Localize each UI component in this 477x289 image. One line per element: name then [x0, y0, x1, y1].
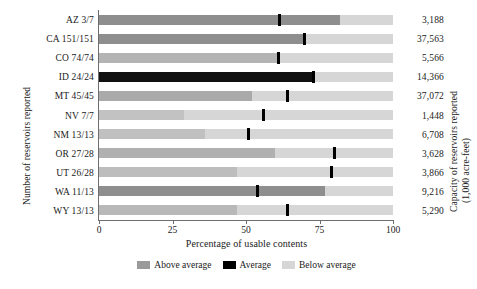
x-axis-tick-label: 100: [386, 225, 400, 235]
capacity-value: 5,566: [399, 53, 444, 63]
bar-segment-above-average: [99, 167, 237, 177]
plot-area: [99, 10, 393, 220]
bar-row: [99, 34, 393, 44]
category-label: MT 45/45: [30, 91, 94, 101]
x-axis-tick-label: 0: [97, 225, 102, 235]
category-label: WY 13/13: [30, 206, 94, 216]
capacity-value-labels: 3,18837,5635,56614,36637,0721,4486,7083,…: [399, 0, 444, 220]
average-marker: [333, 147, 336, 159]
capacity-value: 37,072: [399, 91, 444, 101]
x-axis-title: Percentage of usable contents: [99, 238, 394, 249]
capacity-value: 9,216: [399, 187, 444, 197]
category-label: UT 26/28: [30, 168, 94, 178]
x-axis-tick-label: 75: [315, 225, 325, 235]
average-marker: [278, 14, 281, 26]
x-axis-tick: [393, 220, 394, 224]
x-axis-tick-label: 50: [241, 225, 251, 235]
average-marker: [330, 166, 333, 178]
chart-legend: Above averageAverageBelow average: [99, 260, 394, 270]
bar-row: [99, 167, 393, 177]
capacity-value: 1,448: [399, 111, 444, 121]
bar-segment-above-average: [99, 53, 278, 63]
category-label: AZ 3/7: [30, 15, 94, 25]
capacity-value: 3,628: [399, 149, 444, 159]
bar-row: [99, 148, 393, 158]
bar-row: [99, 110, 393, 120]
bar-row: [99, 186, 393, 196]
average-marker: [247, 128, 250, 140]
bar-segment-above-average: [99, 15, 340, 25]
capacity-value: 6,708: [399, 130, 444, 140]
x-axis-tick-label: 25: [168, 225, 178, 235]
bar-segment-above-average: [99, 91, 252, 101]
category-label: OR 27/28: [30, 149, 94, 159]
category-label: CO 74/74: [30, 53, 94, 63]
legend-swatch-icon: [137, 261, 150, 269]
y-axis-line: [98, 10, 99, 221]
capacity-value: 14,366: [399, 72, 444, 82]
legend-item: Average: [223, 260, 271, 270]
category-label: ID 24/24: [30, 72, 94, 82]
legend-label: Above average: [154, 260, 211, 270]
category-label: WA 11/13: [30, 187, 94, 197]
bar-row: [99, 72, 393, 82]
capacity-value: 5,290: [399, 206, 444, 216]
legend-swatch-icon: [223, 261, 236, 269]
x-axis-tick: [246, 220, 247, 224]
capacity-value: 3,866: [399, 168, 444, 178]
bar-row: [99, 91, 393, 101]
bar-row: [99, 53, 393, 63]
legend-item: Above average: [137, 260, 211, 270]
bar-row: [99, 15, 393, 25]
average-marker: [286, 204, 289, 216]
bar-segment-above-average: [99, 205, 237, 215]
bar-segment-above-average: [99, 110, 184, 120]
x-axis-tick: [99, 220, 100, 224]
average-marker: [256, 185, 259, 197]
average-marker: [312, 71, 315, 83]
legend-swatch-icon: [282, 261, 295, 269]
y-axis-title-right-units: (1,000 acre-feet): [461, 138, 471, 203]
average-marker: [303, 33, 306, 45]
category-label: NV 7/7: [30, 111, 94, 121]
category-label: NM 13/13: [30, 130, 94, 140]
category-axis-labels: AZ 3/7CA 151/151CO 74/74ID 24/24MT 45/45…: [30, 0, 94, 220]
x-axis-tick: [320, 220, 321, 224]
category-label: CA 151/151: [30, 34, 94, 44]
bar-segment-above-average: [99, 34, 305, 44]
bar-segment-above-average: [99, 148, 275, 158]
capacity-value: 3,188: [399, 15, 444, 25]
average-marker: [262, 109, 265, 121]
legend-label: Average: [240, 260, 271, 270]
legend-item: Below average: [282, 260, 356, 270]
legend-label: Below average: [299, 260, 356, 270]
average-marker: [277, 52, 280, 64]
y-axis-title-right: Capacity of reservoirs reported: [449, 91, 459, 212]
bar-row: [99, 129, 393, 139]
reservoir-storage-chart: Number of reservoirs reported Capacity o…: [0, 0, 477, 289]
bar-segment-above-average: [99, 186, 325, 196]
x-axis-tick: [173, 220, 174, 224]
bar-segment-above-average: [99, 129, 205, 139]
bar-row: [99, 205, 393, 215]
bar-segment-above-average: [99, 72, 314, 82]
capacity-value: 37,563: [399, 34, 444, 44]
average-marker: [286, 90, 289, 102]
